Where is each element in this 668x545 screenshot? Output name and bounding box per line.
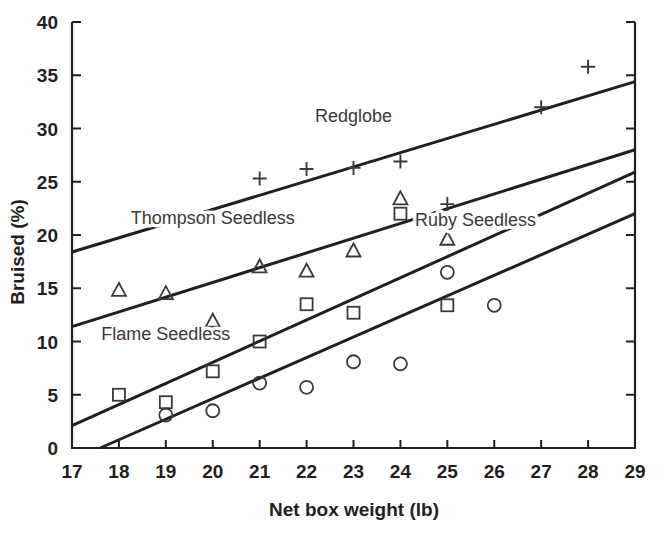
- x-tick-label: 21: [249, 461, 271, 482]
- chart-background: [0, 0, 668, 545]
- y-axis-title: Bruised (%): [7, 199, 28, 305]
- x-tick-label: 20: [202, 461, 223, 482]
- chart-canvas: 17181920212223242526272829 0510152025303…: [0, 0, 668, 545]
- x-tick-label: 28: [578, 461, 599, 482]
- x-tick-label: 19: [155, 461, 176, 482]
- y-tick-label: 40: [37, 12, 58, 33]
- y-tick-label: 10: [37, 332, 58, 353]
- series-label-ruby-seedless: Ruby Seedless: [415, 210, 536, 230]
- x-tick-label: 22: [296, 461, 317, 482]
- x-tick-label: 18: [108, 461, 129, 482]
- series-label-redglobe: Redglobe: [315, 106, 392, 126]
- y-tick-label: 0: [47, 438, 58, 459]
- y-tick-label: 35: [37, 65, 59, 86]
- x-tick-label: 26: [484, 461, 505, 482]
- x-tick-label: 24: [390, 461, 412, 482]
- x-tick-label: 23: [343, 461, 364, 482]
- x-axis-title: Net box weight (lb): [269, 499, 439, 520]
- y-tick-label: 15: [37, 278, 59, 299]
- y-tick-label: 20: [37, 225, 58, 246]
- x-tick-label: 25: [437, 461, 459, 482]
- y-tick-label: 25: [37, 172, 59, 193]
- x-tick-label: 17: [61, 461, 82, 482]
- bruising-scatter-chart: 17181920212223242526272829 0510152025303…: [0, 0, 668, 545]
- x-tick-label: 27: [531, 461, 552, 482]
- series-label-thompson-seedless: Thompson Seedless: [131, 208, 295, 228]
- series-label-flame-seedless: Flame Seedless: [101, 324, 230, 344]
- y-tick-label: 5: [47, 385, 58, 406]
- x-tick-label: 29: [624, 461, 645, 482]
- y-tick-label: 30: [37, 119, 58, 140]
